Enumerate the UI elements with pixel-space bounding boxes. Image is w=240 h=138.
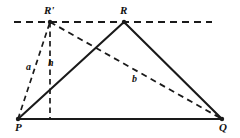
geometry-figure: R' R P Q a h b: [0, 0, 240, 138]
vertex-label-r-prime: R': [44, 5, 54, 16]
vertex-label-r: R: [120, 5, 127, 16]
vertex-dot-R-prime: [48, 20, 52, 24]
segment-label-h: h: [48, 58, 54, 68]
vertex-label-p: P: [15, 122, 22, 133]
side-RQ-solid: [124, 22, 222, 119]
vertex-label-q: Q: [219, 122, 227, 133]
segment-b-dashed: [50, 22, 222, 119]
segment-label-b: b: [132, 74, 137, 84]
vertex-dot-R: [122, 20, 126, 24]
figure-canvas: [0, 0, 240, 138]
segment-label-a: a: [26, 62, 31, 72]
